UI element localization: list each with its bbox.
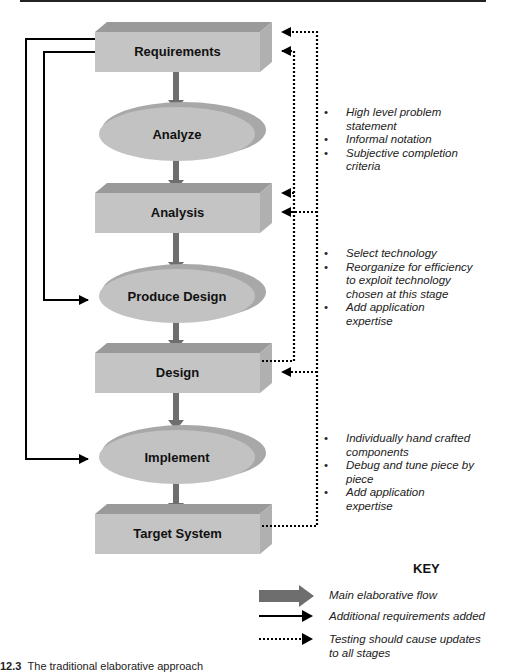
- note-item: Add application expertise: [324, 486, 474, 513]
- additional-requirements-lines: [26, 39, 95, 459]
- note-item: Add application expertise: [324, 301, 474, 328]
- solid-arrow-icon: [259, 610, 313, 622]
- figure-caption: 12.3 The traditional elaborative approac…: [0, 660, 203, 672]
- key-label-testing: Testing should cause updates to all stag…: [329, 633, 489, 660]
- stage-label-analyze: Analyze: [99, 127, 255, 142]
- stage-label-produce-design: Produce Design: [99, 289, 255, 304]
- note-item: Debug and tune piece by piece: [324, 459, 474, 486]
- note-item: Select technology: [324, 247, 474, 261]
- stage-label-design: Design: [95, 365, 260, 380]
- thick-gray-arrow-icon: [259, 585, 314, 607]
- note-item: High level problem statement: [324, 106, 494, 133]
- dotted-arrow-icon: [259, 633, 313, 645]
- note-item: Reorganize for efficiency to exploit tec…: [324, 261, 474, 302]
- stage-label-target-system: Target System: [95, 526, 260, 541]
- notes-analyze: High level problem statement Informal no…: [324, 106, 494, 174]
- stage-label-requirements: Requirements: [95, 44, 260, 59]
- key-label-additional-requirements: Additional requirements added: [329, 610, 485, 624]
- stage-label-analysis: Analysis: [95, 205, 260, 220]
- key-label-main-flow: Main elaborative flow: [329, 589, 437, 603]
- figure-caption-text: The traditional elaborative approach: [28, 660, 204, 672]
- notes-implement: Individually hand crafted components Deb…: [324, 432, 474, 513]
- key-icons: [259, 585, 314, 645]
- stage-label-implement: Implement: [99, 450, 255, 465]
- figure-number: 12.3: [0, 660, 21, 672]
- note-item: Subjective completion criteria: [324, 147, 494, 174]
- testing-feedback-lines: [262, 32, 317, 526]
- notes-produce-design: Select technology Reorganize for efficie…: [324, 247, 474, 328]
- key-title: KEY: [413, 561, 440, 576]
- note-item: Informal notation: [324, 133, 494, 147]
- note-item: Individually hand crafted components: [324, 432, 474, 459]
